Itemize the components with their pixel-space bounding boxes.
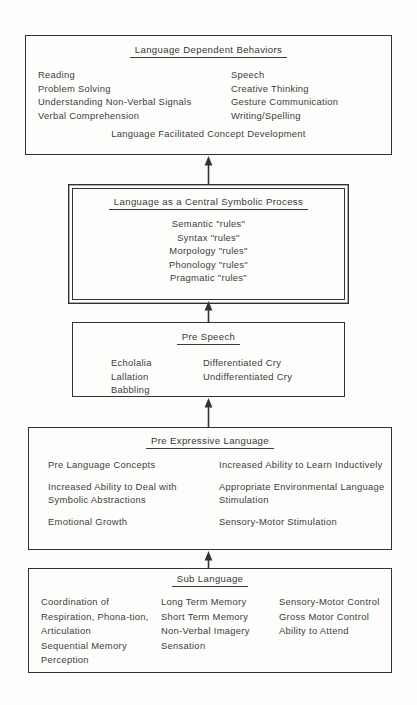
arrow-up-to-language-as-central-symbolic-process — [202, 301, 215, 323]
footer-text: Language Facilitated Concept Development — [26, 127, 391, 141]
list-item: Pre Language Concepts — [48, 458, 218, 472]
list-item: Sensory-Motor Stimulation — [219, 515, 394, 529]
list-item: Phonology "rules" — [73, 258, 344, 272]
list-item: Echolalia — [111, 356, 152, 370]
list-item: Babbling — [111, 383, 152, 397]
box-title-text: Language as a Central Symbolic Process — [109, 196, 308, 210]
list-item: Sensation — [161, 639, 279, 654]
box-language-as-central-symbolic-process: Language as a Central Symbolic Process S… — [72, 188, 345, 300]
column-center: Semantic "rules" Syntax "rules" Morpolog… — [73, 217, 344, 285]
list-item: Problem Solving — [38, 82, 191, 96]
box-pre-speech: Pre Speech Echolalia Lallation Babbling … — [72, 322, 345, 397]
box-pre-expressive-language: Pre Expressive Language Pre Language Con… — [28, 427, 392, 550]
list-item: Gesture Communication — [231, 95, 338, 109]
column-right: Speech Creative Thinking Gesture Communi… — [231, 68, 338, 122]
list-item: Ability to Attend — [279, 624, 397, 639]
box-title-pre-speech: Pre Speech — [73, 331, 344, 345]
list-item: Appropriate Environmental Language Stimu… — [219, 480, 394, 507]
box-sub-language: Sub Language Coordination of Respiration… — [28, 568, 392, 673]
box-title-text: Sub Language — [172, 573, 249, 587]
language-development-diagram: Language Dependent Behaviors Reading Pro… — [0, 0, 417, 705]
list-item: Sequential Memory — [41, 639, 159, 654]
list-item: Semantic "rules" — [73, 217, 344, 231]
list-item: Increased Ability to Deal with Symbolic … — [48, 480, 218, 507]
list-item: Sensory-Motor Control — [279, 595, 397, 610]
list-item: Reading — [38, 68, 191, 82]
list-item: Emotional Growth — [48, 515, 218, 529]
list-item: Creative Thinking — [231, 82, 338, 96]
list-item: Undifferentiated Cry — [203, 370, 292, 384]
list-item: Morpology "rules" — [73, 244, 344, 258]
list-item: Lallation — [111, 370, 152, 384]
list-item: Increased Ability to Learn Inductively — [219, 458, 394, 472]
arrow-up-to-language-dependent-behaviors — [202, 156, 215, 189]
list-item: Understanding Non-Verbal Signals — [38, 95, 191, 109]
list-item: Non-Verbal Imagery — [161, 624, 279, 639]
list-item: Coordination of Respiration, Phona-tion,… — [41, 595, 159, 639]
box-footer: Language Facilitated Concept Development — [26, 127, 391, 141]
box-title-text: Pre Speech — [177, 331, 241, 345]
box-title-language-dependent-behaviors: Language Dependent Behaviors — [26, 44, 391, 58]
column-one: Coordination of Respiration, Phona-tion,… — [41, 595, 159, 668]
box-title-text: Language Dependent Behaviors — [130, 44, 287, 58]
column-three: Sensory-Motor Control Gross Motor Contro… — [279, 595, 397, 639]
list-item: Verbal Comprehension — [38, 109, 191, 123]
list-item: Perception — [41, 653, 159, 668]
list-item: Long Term Memory — [161, 595, 279, 610]
arrow-up-to-pre-expressive-language — [202, 551, 215, 569]
column-left: Pre Language Concepts Increased Ability … — [48, 458, 218, 528]
list-item: Gross Motor Control — [279, 610, 397, 625]
column-right: Increased Ability to Learn Inductively A… — [219, 458, 394, 528]
list-item: Pragmatic "rules" — [73, 271, 344, 285]
list-item: Writing/Spelling — [231, 109, 338, 123]
box-title-text: Pre Expressive Language — [146, 435, 274, 449]
box-title-pre-expressive-language: Pre Expressive Language — [29, 435, 391, 449]
list-item: Short Term Memory — [161, 610, 279, 625]
column-left: Echolalia Lallation Babbling — [111, 356, 152, 397]
box-language-dependent-behaviors: Language Dependent Behaviors Reading Pro… — [25, 35, 392, 155]
list-item: Differentiated Cry — [203, 356, 292, 370]
column-right: Differentiated Cry Undifferentiated Cry — [203, 356, 292, 383]
list-item: Speech — [231, 68, 338, 82]
column-left: Reading Problem Solving Understanding No… — [38, 68, 191, 122]
arrow-up-to-pre-speech — [202, 398, 215, 428]
column-two: Long Term Memory Short Term Memory Non-V… — [161, 595, 279, 653]
list-item: Syntax "rules" — [73, 231, 344, 245]
box-title-language-as-central-symbolic-process: Language as a Central Symbolic Process — [73, 196, 344, 210]
box-title-sub-language: Sub Language — [29, 573, 391, 587]
